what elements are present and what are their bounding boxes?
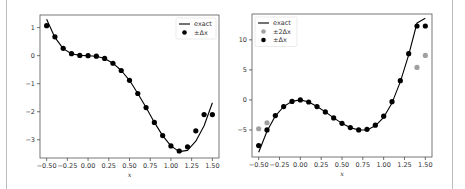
legend-label: ±Δx [273, 36, 287, 44]
legend-label: ±2Δx [273, 28, 291, 36]
x-tick-label: 0.25 [102, 162, 116, 170]
y-tick-label: −2 [25, 108, 35, 116]
y-tick-label: 0 [243, 96, 247, 104]
data-point [177, 148, 182, 153]
data-point [110, 61, 115, 66]
x-tick-label: −0.25 [270, 161, 290, 169]
data-point [61, 46, 66, 51]
x-tick-label: 1.50 [418, 161, 432, 169]
legend-label: exact [194, 20, 212, 28]
x-tick-label: 1.50 [205, 162, 219, 170]
y-tick-label: 10 [239, 36, 247, 44]
x-tick-label: 0.00 [81, 162, 95, 170]
x-tick-label: 0.75 [143, 162, 157, 170]
data-point [423, 53, 428, 58]
data-point [102, 56, 107, 61]
data-point [44, 23, 49, 28]
data-point [264, 127, 269, 132]
x-tick-label: 0.50 [335, 161, 349, 169]
data-point [423, 23, 428, 28]
x-axis-label: x [128, 171, 132, 179]
left-plot: −0.50−0.250.000.250.500.751.001.251.5010… [25, 15, 219, 179]
chart-canvas: −0.50−0.250.000.250.500.751.001.251.5010… [0, 0, 465, 189]
x-tick-label: 1.25 [397, 161, 411, 169]
data-point [356, 127, 361, 132]
data-point [52, 34, 57, 39]
legend-dot-swatch [182, 30, 187, 35]
data-point [414, 65, 419, 70]
x-tick-label: −0.50 [249, 161, 269, 169]
data-point [77, 53, 82, 58]
y-tick-label: −1 [25, 80, 35, 88]
y-tick-label: 1 [31, 24, 35, 32]
data-point [193, 128, 198, 133]
legend-label: exact [273, 19, 291, 27]
x-tick-label: 0.75 [356, 161, 370, 169]
legend: exact±Δx [176, 18, 216, 39]
data-point [127, 78, 132, 83]
data-point [85, 53, 90, 58]
data-point [201, 112, 206, 117]
data-point [406, 51, 411, 56]
legend-dot-swatch [261, 29, 266, 34]
x-tick-label: −0.25 [57, 162, 77, 170]
x-tick-label: 0.50 [122, 162, 136, 170]
y-tick-label: 5 [243, 66, 247, 74]
data-point [152, 120, 157, 125]
data-point [135, 91, 140, 96]
data-point [185, 144, 190, 149]
data-point [414, 23, 419, 28]
data-point [381, 114, 386, 119]
data-point [210, 112, 215, 117]
y-tick-label: 0 [31, 52, 35, 60]
data-point [256, 126, 261, 131]
data-point [256, 143, 261, 148]
x-tick-label: −0.50 [37, 162, 57, 170]
data-point [298, 97, 303, 102]
legend: exact±2Δx±Δx [255, 17, 297, 47]
data-point [289, 99, 294, 104]
data-point [373, 123, 378, 128]
y-tick-label: −5 [237, 126, 247, 134]
data-point [331, 115, 336, 120]
x-tick-label: 1.00 [164, 162, 178, 170]
data-point [306, 99, 311, 104]
data-point [160, 133, 165, 138]
x-tick-label: 1.25 [184, 162, 198, 170]
x-tick-label: 1.00 [376, 161, 390, 169]
data-point [94, 54, 99, 59]
x-tick-label: 0.25 [314, 161, 328, 169]
data-point [273, 113, 278, 118]
data-point [264, 120, 269, 125]
data-point [389, 99, 394, 104]
data-point [168, 143, 173, 148]
y-tick-label: −3 [25, 136, 35, 144]
right-plot: −0.50−0.250.000.250.500.751.001.251.5010… [237, 14, 432, 178]
data-point [119, 68, 124, 73]
data-point [314, 104, 319, 109]
legend-dot-swatch [261, 38, 266, 43]
data-point [69, 51, 74, 56]
x-tick-label: 0.00 [293, 161, 307, 169]
data-point [339, 121, 344, 126]
data-point [398, 78, 403, 83]
data-point [281, 104, 286, 109]
data-point [143, 105, 148, 110]
data-point [364, 127, 369, 132]
legend-label: ±Δx [194, 29, 208, 37]
data-point [323, 109, 328, 114]
x-axis-label: x [340, 170, 344, 178]
data-point [348, 125, 353, 130]
